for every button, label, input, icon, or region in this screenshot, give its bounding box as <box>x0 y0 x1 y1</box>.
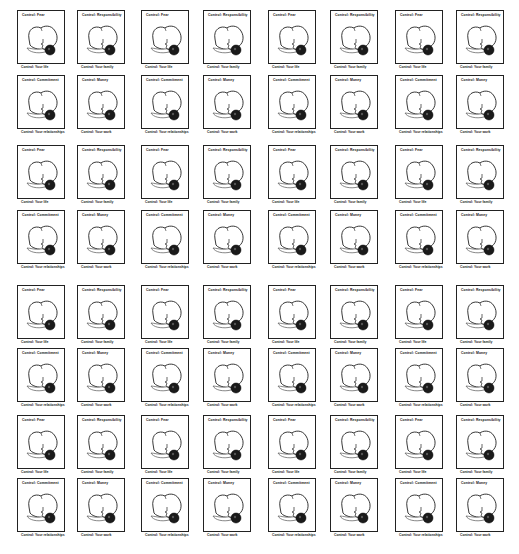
heart-figure-icon <box>145 154 187 196</box>
heart-figure-icon <box>399 357 441 399</box>
diagram-panel: Control: Fear Control: Your life <box>141 285 191 349</box>
panel-top-label: Control: Money <box>461 351 487 355</box>
diagram-panel: Control: Commitment Control: Your relati… <box>395 348 445 412</box>
panel-top-label: Control: Commitment <box>400 481 437 485</box>
panel-bottom-label: Control: Your life <box>21 340 48 344</box>
heart-figure-icon <box>81 154 123 196</box>
panel-frame: Control: Fear <box>141 10 189 64</box>
heart-figure-icon <box>81 154 123 196</box>
panel-bottom-label: Control: Your relationships <box>399 403 443 407</box>
panel-frame: Control: Responsibility <box>77 10 125 64</box>
diagram-panel: Control: Responsibility Control: Your fa… <box>456 145 506 209</box>
diagram-panel: Control: Money Control: Your work <box>203 348 253 412</box>
panel-bottom-label: Control: Your life <box>272 470 299 474</box>
diagram-panel: Control: Money Control: Your work <box>456 75 506 139</box>
heart-figure-icon <box>334 487 376 529</box>
heart-figure-icon <box>21 19 63 61</box>
panel-top-label: Control: Money <box>208 78 234 82</box>
panel-bottom-label: Control: Your work <box>334 403 364 407</box>
panel-frame: Control: Fear <box>17 145 65 199</box>
panel-top-label: Control: Fear <box>400 288 423 292</box>
heart-figure-icon <box>207 19 249 61</box>
panel-frame: Control: Commitment <box>395 75 443 129</box>
diagram-panel: Control: Money Control: Your work <box>77 75 127 139</box>
heart-figure-icon <box>399 154 441 196</box>
panel-bottom-label: Control: Your relationships <box>145 533 189 537</box>
heart-figure-icon <box>334 357 376 399</box>
heart-figure-icon <box>21 219 63 261</box>
diagram-panel: Control: Responsibility Control: Your fa… <box>77 285 127 349</box>
heart-figure-icon <box>334 219 376 261</box>
panel-frame: Control: Responsibility <box>77 145 125 199</box>
panel-bottom-label: Control: Your work <box>334 130 364 134</box>
panel-top-label: Control: Commitment <box>400 78 437 82</box>
diagram-panel: Control: Money Control: Your work <box>77 348 127 412</box>
panel-bottom-label: Control: Your life <box>399 470 426 474</box>
panel-bottom-label: Control: Your family <box>81 470 113 474</box>
panel-bottom-label: Control: Your life <box>399 200 426 204</box>
panel-top-label: Control: Fear <box>400 148 423 152</box>
panel-bottom-label: Control: Your family <box>81 340 113 344</box>
panel-frame: Control: Commitment <box>141 348 189 402</box>
diagram-panel: Control: Fear Control: Your life <box>395 285 445 349</box>
panel-frame: Control: Commitment <box>141 478 189 532</box>
diagram-panel: Control: Commitment Control: Your relati… <box>141 75 191 139</box>
heart-figure-icon <box>460 154 502 196</box>
panel-bottom-label: Control: Your work <box>460 533 490 537</box>
diagram-panel: Control: Money Control: Your work <box>77 478 127 542</box>
panel-frame: Control: Fear <box>17 415 65 469</box>
panel-frame: Control: Money <box>203 210 251 264</box>
diagram-panel: Control: Fear Control: Your life <box>395 415 445 479</box>
heart-figure-icon <box>460 84 502 126</box>
panel-top-label: Control: Responsibility <box>461 288 501 292</box>
diagram-panel: Control: Responsibility Control: Your fa… <box>456 10 506 74</box>
panel-top-label: Control: Responsibility <box>335 13 375 17</box>
panel-frame: Control: Responsibility <box>203 145 251 199</box>
heart-figure-icon <box>460 294 502 336</box>
panel-frame: Control: Commitment <box>268 75 316 129</box>
heart-figure-icon <box>81 219 123 261</box>
panel-bottom-label: Control: Your work <box>81 265 111 269</box>
panel-top-label: Control: Fear <box>146 148 169 152</box>
diagram-panel: Control: Money Control: Your work <box>330 348 380 412</box>
heart-figure-icon <box>334 357 376 399</box>
panel-frame: Control: Commitment <box>141 75 189 129</box>
heart-figure-icon <box>207 424 249 466</box>
heart-figure-icon <box>207 424 249 466</box>
heart-figure-icon <box>21 294 63 336</box>
heart-figure-icon <box>21 154 63 196</box>
diagram-panel: Control: Fear Control: Your life <box>395 10 445 74</box>
heart-figure-icon <box>145 84 187 126</box>
panel-frame: Control: Money <box>330 478 378 532</box>
heart-figure-icon <box>334 424 376 466</box>
panel-frame: Control: Responsibility <box>77 285 125 339</box>
panel-top-label: Control: Responsibility <box>82 148 122 152</box>
panel-top-label: Control: Money <box>82 481 108 485</box>
panel-top-label: Control: Fear <box>273 13 296 17</box>
diagram-panel: Control: Commitment Control: Your relati… <box>17 348 67 412</box>
heart-figure-icon <box>81 357 123 399</box>
panel-bottom-label: Control: Your relationships <box>21 533 65 537</box>
panel-frame: Control: Fear <box>268 145 316 199</box>
panel-top-label: Control: Money <box>82 78 108 82</box>
heart-figure-icon <box>207 219 249 261</box>
panel-bottom-label: Control: Your family <box>334 200 366 204</box>
panel-bottom-label: Control: Your family <box>207 340 239 344</box>
diagram-panel: Control: Commitment Control: Your relati… <box>17 478 67 542</box>
heart-figure-icon <box>207 294 249 336</box>
panel-top-label: Control: Fear <box>146 418 169 422</box>
diagram-panel: Control: Responsibility Control: Your fa… <box>330 285 380 349</box>
panel-frame: Control: Money <box>203 478 251 532</box>
panel-frame: Control: Fear <box>141 145 189 199</box>
panel-top-label: Control: Responsibility <box>461 13 501 17</box>
panel-top-label: Control: Commitment <box>146 78 183 82</box>
panel-frame: Control: Responsibility <box>456 10 504 64</box>
panel-frame: Control: Fear <box>395 415 443 469</box>
panel-frame: Control: Fear <box>395 285 443 339</box>
diagram-panel: Control: Fear Control: Your life <box>17 145 67 209</box>
heart-figure-icon <box>399 84 441 126</box>
heart-figure-icon <box>145 424 187 466</box>
panel-top-label: Control: Commitment <box>273 78 310 82</box>
heart-figure-icon <box>81 357 123 399</box>
panel-bottom-label: Control: Your work <box>460 265 490 269</box>
